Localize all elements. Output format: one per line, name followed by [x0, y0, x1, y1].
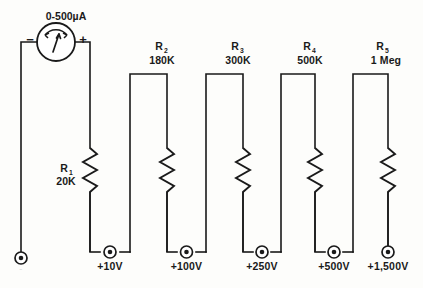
- resistor-r5-symbol: [381, 148, 395, 252]
- resistor-r5-subscript: 5: [385, 47, 389, 54]
- resistor-r4-symbol: [308, 148, 322, 252]
- terminal-label-10v: +10V: [97, 260, 123, 272]
- terminal-pin-1500v: [386, 250, 391, 255]
- circuit-svg: 0-500µA − + − R 1 20K R 2 180K R 3 300K …: [0, 0, 423, 288]
- terminal-label-250v: +250V: [246, 260, 278, 272]
- terminal-pin-100v: [184, 250, 189, 255]
- resistor-r5-ref: R: [376, 40, 384, 52]
- terminal-pin-500v: [332, 250, 337, 255]
- wire-meter-minus-to-ground: [21, 42, 37, 252]
- resistor-r4-value: 500K: [297, 54, 323, 66]
- resistor-r4-subscript: 4: [312, 47, 316, 54]
- resistor-r1-symbol: [83, 148, 97, 252]
- resistor-r5-value: 1 Meg: [371, 54, 401, 66]
- resistor-r1-value: 20K: [56, 175, 76, 187]
- resistor-r1-ref: R: [60, 162, 68, 174]
- ground-terminal-label: −: [20, 266, 23, 272]
- terminal-label-500v: +500V: [318, 260, 350, 272]
- resistor-r2-ref: R: [155, 40, 163, 52]
- resistor-r2-value: 180K: [149, 54, 175, 66]
- resistor-r3-symbol: [236, 148, 250, 252]
- meter-positive-terminal-label: +: [79, 32, 87, 47]
- resistor-r4-ref: R: [303, 40, 311, 52]
- resistor-r2-subscript: 2: [164, 47, 168, 54]
- resistor-r3-ref: R: [231, 40, 239, 52]
- meter-negative-terminal-label: −: [26, 32, 34, 47]
- resistor-r2-symbol: [160, 148, 174, 252]
- terminal-label-1500v: +1,500V: [368, 260, 409, 272]
- wire-meter-plus-to-r1: [75, 42, 90, 148]
- terminal-label-100v: +100V: [171, 260, 203, 272]
- ground-terminal-pin: [19, 256, 24, 261]
- meter-range-label: 0-500µA: [46, 10, 87, 22]
- resistor-r3-subscript: 3: [240, 47, 244, 54]
- terminal-pin-250v: [260, 250, 265, 255]
- circuit-diagram: 0-500µA − + − R 1 20K R 2 180K R 3 300K …: [0, 0, 423, 288]
- terminal-pin-10v: [108, 250, 113, 255]
- resistor-r3-value: 300K: [225, 54, 251, 66]
